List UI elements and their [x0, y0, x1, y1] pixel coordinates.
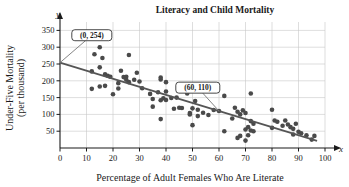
data-point: [119, 68, 124, 73]
y-tick-label: 350: [42, 25, 55, 35]
x-tick-label: 80: [268, 153, 277, 163]
data-point: [148, 92, 153, 97]
data-point: [111, 92, 116, 97]
x-axis-symbol: x: [338, 144, 343, 154]
regression-line: [60, 63, 317, 141]
x-tick-label: 70: [241, 153, 250, 163]
data-point: [201, 110, 206, 115]
data-point: [100, 56, 105, 61]
data-point: [238, 112, 243, 117]
data-point: [97, 45, 102, 50]
x-tick-label: 10: [82, 153, 91, 163]
data-point: [90, 87, 95, 92]
data-point: [294, 122, 299, 127]
data-point: [312, 134, 317, 139]
data-point: [158, 117, 163, 122]
data-point: [280, 124, 285, 129]
y-tick-label: 300: [42, 42, 55, 52]
data-point: [230, 116, 235, 121]
data-point: [246, 133, 251, 138]
trend-line: [60, 63, 317, 141]
data-point: [132, 77, 137, 82]
data-point: [127, 53, 132, 58]
x-axis-label: Percentage of Adult Females Who Are Lite…: [96, 172, 284, 183]
x-tick-label: 20: [109, 153, 118, 163]
x-tick-label: 40: [162, 153, 171, 163]
data-point: [180, 106, 185, 111]
data-point: [103, 84, 108, 89]
chart-svg: 0102030405060708090100 50100150200250300…: [0, 0, 349, 187]
data-point: [249, 91, 254, 96]
data-point: [190, 123, 195, 128]
data-point: [222, 129, 227, 134]
data-point: [196, 114, 201, 119]
data-point: [190, 106, 195, 111]
x-tick-label: 90: [294, 153, 303, 163]
data-point: [206, 113, 211, 118]
x-tick-label: 60: [215, 153, 224, 163]
data-point: [238, 134, 243, 139]
data-point: [172, 106, 177, 111]
x-tick-label: 30: [135, 153, 144, 163]
data-point: [164, 98, 169, 103]
data-point: [116, 86, 121, 91]
y-tick-label: 150: [42, 93, 55, 103]
x-tick-label: 0: [58, 153, 62, 163]
data-point: [283, 118, 288, 123]
data-point: [196, 107, 201, 112]
data-point: [97, 65, 102, 70]
callout-label: (0, 254): [80, 31, 104, 40]
data-point: [270, 107, 275, 112]
data-point: [150, 104, 155, 109]
data-point: [150, 97, 155, 102]
data-point: [97, 84, 102, 89]
data-point: [275, 119, 280, 124]
data-point: [188, 112, 193, 117]
data-point: [233, 105, 238, 110]
data-point: [164, 80, 169, 85]
data-point: [243, 138, 248, 143]
data-point: [243, 111, 248, 116]
chart-title: Literacy and Child Mortality: [156, 5, 275, 15]
data-point: [137, 79, 142, 84]
y-axis-label-line2: (per thousand): [15, 59, 27, 117]
data-point: [164, 89, 169, 94]
y-tick-label: 100: [42, 109, 55, 119]
x-tick-labels: 0102030405060708090100: [58, 153, 332, 163]
y-tick-label: 50: [46, 126, 55, 136]
data-point: [291, 127, 296, 132]
y-axis-label-line1: Under-Five Mortality: [4, 45, 15, 131]
callout-label: (60, 110): [184, 83, 212, 92]
x-tick-label: 50: [188, 153, 197, 163]
y-tick-label: 250: [42, 59, 55, 69]
y-tick-labels: 50100150200250300350: [42, 25, 55, 136]
y-tick-label: 200: [42, 76, 55, 86]
literacy-mortality-scatter-chart: 0102030405060708090100 50100150200250300…: [0, 0, 349, 187]
x-tick-label: 100: [319, 153, 332, 163]
data-point: [251, 129, 256, 134]
data-point: [222, 94, 227, 99]
y-axis-symbol: y: [55, 9, 60, 19]
data-point: [92, 52, 97, 57]
data-point: [135, 70, 140, 75]
data-point: [158, 77, 163, 82]
